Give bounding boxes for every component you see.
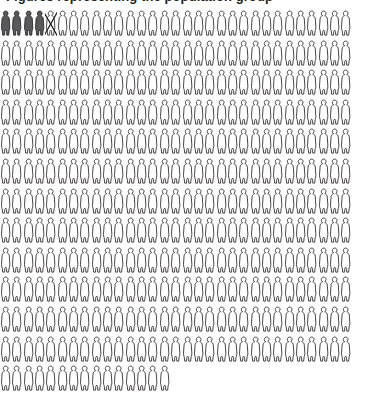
person-icon	[193, 40, 204, 68]
person-icon	[102, 217, 113, 245]
person-icon	[182, 40, 193, 68]
person-icon	[170, 276, 181, 304]
person-icon	[284, 276, 295, 304]
person-icon	[57, 40, 68, 68]
person-icon	[306, 217, 317, 245]
person-icon	[34, 99, 45, 127]
person-icon	[68, 365, 79, 393]
pictogram-row	[0, 158, 380, 186]
person-icon	[193, 158, 204, 186]
person-icon	[204, 128, 215, 156]
person-icon	[193, 217, 204, 245]
person-icon	[91, 128, 102, 156]
person-icon	[318, 40, 329, 68]
person-icon	[91, 99, 102, 127]
person-icon	[329, 276, 340, 304]
person-icon	[284, 217, 295, 245]
person-icon	[0, 247, 11, 275]
person-icon	[284, 10, 295, 38]
person-icon	[238, 306, 249, 334]
person-icon	[57, 69, 68, 97]
person-icon	[91, 306, 102, 334]
person-icon	[147, 99, 158, 127]
person-icon	[102, 336, 113, 364]
person-icon	[318, 188, 329, 216]
person-icon	[250, 99, 261, 127]
person-icon	[68, 99, 79, 127]
pictogram-row	[0, 10, 380, 38]
person-icon	[238, 247, 249, 275]
person-icon	[125, 276, 136, 304]
person-icon	[136, 276, 147, 304]
person-icon	[159, 306, 170, 334]
person-icon	[295, 336, 306, 364]
person-icon	[204, 40, 215, 68]
person-icon	[11, 247, 22, 275]
person-icon	[193, 10, 204, 38]
person-icon	[68, 10, 79, 38]
person-icon	[295, 247, 306, 275]
person-icon	[318, 247, 329, 275]
person-icon	[147, 188, 158, 216]
person-icon	[11, 336, 22, 364]
person-icon	[45, 247, 56, 275]
person-icon	[284, 99, 295, 127]
person-icon	[57, 365, 68, 393]
person-icon	[102, 69, 113, 97]
person-icon	[318, 336, 329, 364]
person-icon	[79, 158, 90, 186]
person-icon	[45, 188, 56, 216]
person-icon	[91, 40, 102, 68]
person-icon	[159, 188, 170, 216]
person-icon	[340, 158, 351, 186]
person-icon	[136, 158, 147, 186]
person-icon	[102, 158, 113, 186]
person-icon	[0, 276, 11, 304]
person-icon	[250, 276, 261, 304]
person-icon	[159, 158, 170, 186]
person-icon	[68, 40, 79, 68]
person-icon	[159, 69, 170, 97]
person-icon	[238, 158, 249, 186]
person-icon	[318, 306, 329, 334]
person-icon	[159, 10, 170, 38]
person-icon	[306, 247, 317, 275]
person-icon	[57, 217, 68, 245]
person-icon	[0, 69, 11, 97]
person-icon	[136, 69, 147, 97]
person-icon	[11, 40, 22, 68]
person-icon	[91, 10, 102, 38]
person-icon	[318, 69, 329, 97]
person-icon	[79, 99, 90, 127]
person-icon	[147, 365, 158, 393]
person-icon	[182, 158, 193, 186]
person-icon	[216, 217, 227, 245]
person-icon	[147, 306, 158, 334]
person-icon	[136, 247, 147, 275]
person-icon	[284, 40, 295, 68]
person-icon	[284, 188, 295, 216]
person-icon	[34, 40, 45, 68]
person-icon	[113, 336, 124, 364]
person-icon	[34, 128, 45, 156]
person-icon	[284, 247, 295, 275]
person-icon	[295, 217, 306, 245]
person-icon	[23, 306, 34, 334]
person-icon	[272, 40, 283, 68]
person-icon	[318, 99, 329, 127]
person-icon	[23, 128, 34, 156]
person-icon	[0, 306, 11, 334]
person-icon	[261, 99, 272, 127]
person-icon	[193, 188, 204, 216]
person-icon	[295, 158, 306, 186]
person-icon	[45, 99, 56, 127]
person-icon	[113, 128, 124, 156]
person-icon	[159, 247, 170, 275]
person-icon	[45, 365, 56, 393]
person-icon	[204, 336, 215, 364]
person-icon	[250, 69, 261, 97]
person-icon	[182, 217, 193, 245]
person-icon	[340, 336, 351, 364]
person-icon	[318, 276, 329, 304]
person-icon	[147, 10, 158, 38]
